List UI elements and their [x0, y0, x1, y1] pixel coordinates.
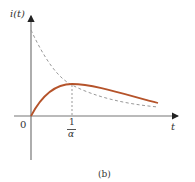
tick-numerator: 1 [69, 117, 75, 127]
plot-canvas [0, 0, 195, 182]
figure-caption: (b) [98, 169, 111, 179]
tick-denominator: α [68, 129, 74, 139]
origin-label: 0 [20, 119, 26, 130]
x-axis-label: t [171, 121, 175, 132]
y-axis-label: i(t) [10, 8, 25, 19]
envelope-curve [31, 30, 158, 107]
response-curve [31, 84, 158, 116]
